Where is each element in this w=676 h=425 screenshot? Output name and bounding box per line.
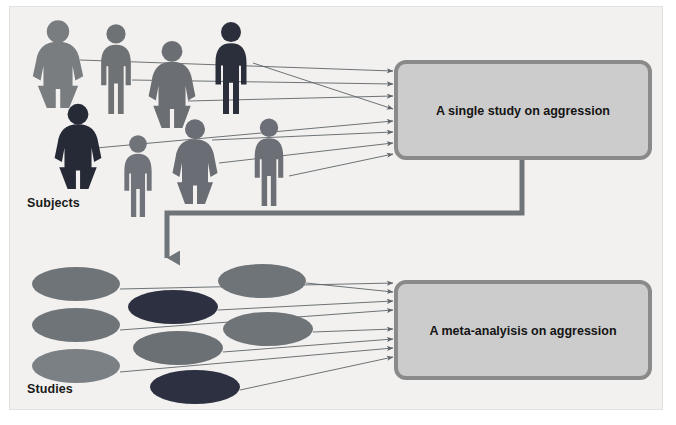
person-7-female-pictogram [173, 119, 218, 204]
person-8-body [255, 138, 284, 206]
arrow-subject-7 [219, 143, 393, 163]
subjects-label: Subjects [27, 196, 80, 210]
diagram-stage: A single study on aggression A meta-anal… [0, 0, 676, 425]
study-5-ellipse [223, 312, 313, 346]
connector-elbow-arrow [167, 158, 522, 258]
person-8-head [260, 118, 278, 136]
meta-analysis-box-label: A meta-analyisis on aggression [400, 324, 646, 338]
person-7-head [185, 119, 205, 139]
arrow-study-5 [313, 329, 393, 332]
person-4-body [216, 43, 247, 114]
study-6-ellipse [133, 331, 223, 365]
person-3-female-pictogram [149, 41, 196, 128]
person-1-head [47, 20, 69, 42]
study-2-ellipse [218, 264, 306, 298]
arrow-subject-6 [212, 132, 393, 140]
person-1-body [33, 42, 83, 108]
person-6-male-pictogram [124, 135, 151, 217]
connector-study-to-meta [167, 158, 522, 258]
person-5-head [68, 104, 89, 125]
study-7-ellipse [32, 349, 120, 383]
person-7-body [173, 139, 218, 204]
person-2-male-pictogram [101, 24, 131, 114]
studies-label: Studies [27, 382, 73, 396]
person-5-female-pictogram [55, 104, 102, 189]
person-3-head [162, 41, 183, 62]
diagram-canvas [0, 0, 676, 425]
study-8-ellipse [150, 370, 240, 404]
person-4-head [221, 22, 241, 42]
person-1-female-pictogram [33, 20, 83, 108]
study-3-ellipse [128, 290, 218, 324]
arrow-subject-8 [289, 154, 393, 176]
person-2-head [106, 24, 125, 43]
subjects-pictogram-group [33, 20, 283, 217]
arrow-study-8 [240, 357, 393, 390]
person-3-body [149, 62, 196, 128]
person-6-body [124, 154, 151, 217]
single-study-box-label: A single study on aggression [400, 104, 646, 118]
study-1-ellipse [32, 267, 120, 301]
person-5-body [55, 124, 102, 189]
study-4-ellipse [32, 308, 120, 342]
person-2-body [101, 45, 131, 114]
arrow-study-3 [218, 301, 393, 310]
person-6-head [129, 135, 147, 153]
